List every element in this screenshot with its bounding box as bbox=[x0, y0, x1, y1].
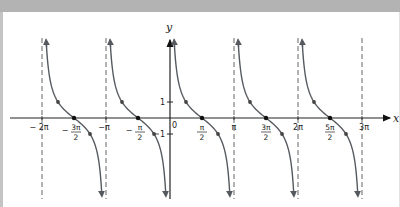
y-axis-label: y bbox=[165, 21, 173, 34]
x-tick-label-fraction: 3π2 bbox=[261, 123, 271, 142]
marked-point bbox=[88, 132, 92, 136]
x-tick-label-fraction: 5π2 bbox=[325, 123, 335, 142]
svg-text:2: 2 bbox=[138, 133, 143, 142]
x-tick-label-fraction: π2 bbox=[197, 123, 207, 142]
marked-point bbox=[120, 100, 124, 104]
svg-text:2: 2 bbox=[74, 133, 79, 142]
x-tick-label: π bbox=[232, 123, 237, 132]
marked-point bbox=[200, 116, 204, 120]
marked-point bbox=[312, 100, 316, 104]
marked-point bbox=[56, 100, 60, 104]
svg-text:2: 2 bbox=[328, 133, 333, 142]
marked-point bbox=[184, 100, 188, 104]
svg-text:3π: 3π bbox=[261, 123, 271, 132]
marked-point bbox=[280, 132, 284, 136]
svg-text:2: 2 bbox=[200, 133, 205, 142]
x-tick-label: 3π bbox=[359, 123, 369, 132]
origin-label: 0 bbox=[172, 121, 177, 130]
x-tick-label: − 2π bbox=[29, 123, 48, 132]
marked-point bbox=[328, 116, 332, 120]
svg-text:2: 2 bbox=[264, 133, 269, 142]
svg-text:π: π bbox=[138, 123, 143, 132]
marked-point bbox=[248, 100, 252, 104]
x-tick-label: −π bbox=[98, 123, 110, 132]
marked-point bbox=[344, 132, 348, 136]
svg-text:3π: 3π bbox=[71, 123, 81, 132]
cot-graph: − 2π−ππ2π3π−3π2−π2π23π25π2 x y 0 1 1 bbox=[0, 0, 400, 207]
svg-text:−: − bbox=[126, 126, 133, 135]
x-tick-label-fraction: −3π2 bbox=[62, 123, 81, 142]
x-tick-labels: − 2π−ππ2π3π−3π2−π2π23π25π2 bbox=[29, 116, 369, 142]
marked-point bbox=[216, 132, 220, 136]
x-tick-label: 2π bbox=[293, 123, 303, 132]
marked-point bbox=[136, 116, 140, 120]
svg-text:π: π bbox=[200, 123, 205, 132]
svg-text:5π: 5π bbox=[325, 123, 335, 132]
marked-point bbox=[264, 116, 268, 120]
y-label-1: 1 bbox=[160, 98, 165, 107]
marked-point bbox=[72, 116, 76, 120]
svg-text:1: 1 bbox=[160, 130, 165, 139]
svg-text:−: − bbox=[62, 126, 69, 135]
x-tick-label-fraction: −π2 bbox=[126, 123, 145, 142]
x-axis-label: x bbox=[393, 112, 400, 125]
